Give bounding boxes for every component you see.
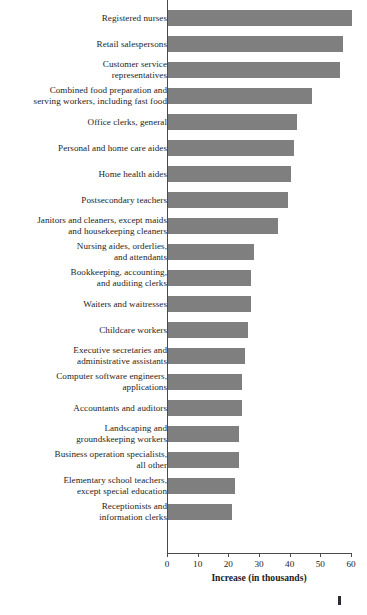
bar-track (168, 192, 358, 208)
bar-track (168, 296, 358, 312)
category-label: Personal and home care aides (0, 143, 167, 154)
bar (168, 36, 343, 52)
x-axis-tick-label: 0 (165, 559, 170, 570)
bar (168, 348, 245, 364)
bar (168, 270, 251, 286)
x-axis-tick-label: 10 (193, 559, 202, 570)
bar (168, 322, 248, 338)
bar (168, 218, 278, 234)
chart-row: Childcare workers (0, 317, 367, 343)
chart-row: Executive secretaries and administrative… (0, 343, 367, 369)
bar-rows: Registered nurses Retail salespersons Cu… (0, 5, 367, 525)
category-label: Waiters and waitresses (0, 299, 167, 310)
bar-track (168, 36, 358, 52)
chart-row: Nursing aides, orderlies, and attendants (0, 239, 367, 265)
category-label: Nursing aides, orderlies, and attendants (0, 241, 167, 262)
bar-chart: Registered nurses Retail salespersons Cu… (0, 0, 367, 615)
bar-track (168, 426, 358, 442)
bar (168, 504, 232, 520)
chart-row: Receptionists and information clerks (0, 499, 367, 525)
bar (168, 140, 294, 156)
category-label: Executive secretaries and administrative… (0, 345, 167, 366)
category-label: Elementary school teachers, except speci… (0, 475, 167, 496)
x-axis-tick-label: 50 (316, 559, 325, 570)
bar (168, 88, 312, 104)
bar (168, 296, 251, 312)
category-label: Combined food preparation and serving wo… (0, 85, 167, 106)
bar-track (168, 114, 358, 130)
chart-row: Janitors and cleaners, except maids and … (0, 213, 367, 239)
bar (168, 192, 288, 208)
x-axis-tick-label: 20 (224, 559, 233, 570)
category-label: Receptionists and information clerks (0, 501, 167, 522)
bar-track (168, 62, 358, 78)
chart-row: Office clerks, general (0, 109, 367, 135)
x-axis-tick (290, 553, 291, 557)
bar-track (168, 322, 358, 338)
x-axis-tick (259, 553, 260, 557)
chart-row: Accountants and auditors (0, 395, 367, 421)
bar (168, 426, 239, 442)
x-axis-tick-label: 30 (254, 559, 263, 570)
category-label: Office clerks, general (0, 117, 167, 128)
bar-track (168, 88, 358, 104)
x-axis-tick-label: 40 (285, 559, 294, 570)
bar-track (168, 166, 358, 182)
category-label: Postsecondary teachers (0, 195, 167, 206)
x-axis-tick (320, 553, 321, 557)
bar (168, 244, 254, 260)
y-axis-line (167, 0, 168, 553)
bar (168, 478, 235, 494)
category-label: Business operation specialists, all othe… (0, 449, 167, 470)
category-label: Registered nurses (0, 13, 167, 24)
chart-row: Waiters and waitresses (0, 291, 367, 317)
category-label: Accountants and auditors (0, 403, 167, 414)
bar-track (168, 452, 358, 468)
chart-row: Combined food preparation and serving wo… (0, 83, 367, 109)
x-axis-tick (351, 553, 352, 557)
category-label: Landscaping and groundskeeping workers (0, 423, 167, 444)
chart-row: Postsecondary teachers (0, 187, 367, 213)
plot-area: Registered nurses Retail salespersons Cu… (0, 0, 367, 560)
chart-row: Retail salespersons (0, 31, 367, 57)
x-axis-tick (228, 553, 229, 557)
bar (168, 374, 242, 390)
bar-track (168, 10, 358, 26)
chart-row: Bookkeeping, accounting, and auditing cl… (0, 265, 367, 291)
category-label: Customer service representatives (0, 59, 167, 80)
bar (168, 10, 352, 26)
chart-row: Registered nurses (0, 5, 367, 31)
x-axis-title: Increase (in thousands) (167, 572, 351, 583)
bar-track (168, 400, 358, 416)
bar (168, 166, 291, 182)
chart-row: Computer software engineers, application… (0, 369, 367, 395)
x-axis-tick (198, 553, 199, 557)
chart-row: Elementary school teachers, except speci… (0, 473, 367, 499)
bar-track (168, 504, 358, 520)
x-axis-tick-label: 60 (346, 559, 355, 570)
category-label: Janitors and cleaners, except maids and … (0, 215, 167, 236)
bar-track (168, 270, 358, 286)
category-label: Bookkeeping, accounting, and auditing cl… (0, 267, 167, 288)
bar-track (168, 348, 358, 364)
chart-row: Landscaping and groundskeeping workers (0, 421, 367, 447)
page-edge-mark (338, 596, 341, 605)
category-label: Retail salespersons (0, 39, 167, 50)
bar (168, 400, 242, 416)
bar-track (168, 218, 358, 234)
chart-row: Home health aides (0, 161, 367, 187)
bar (168, 452, 239, 468)
bar-track (168, 140, 358, 156)
bar (168, 114, 297, 130)
bar-track (168, 374, 358, 390)
chart-row: Business operation specialists, all othe… (0, 447, 367, 473)
category-label: Childcare workers (0, 325, 167, 336)
bar-track (168, 244, 358, 260)
category-label: Home health aides (0, 169, 167, 180)
bar (168, 62, 340, 78)
chart-row: Customer service representatives (0, 57, 367, 83)
chart-row: Personal and home care aides (0, 135, 367, 161)
bar-track (168, 478, 358, 494)
category-label: Computer software engineers, application… (0, 371, 167, 392)
x-axis-tick (167, 553, 168, 557)
